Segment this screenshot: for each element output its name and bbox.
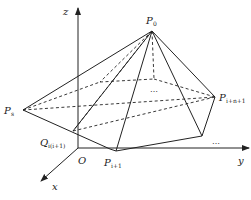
label-ps: P s bbox=[3, 105, 14, 117]
svg-text:s: s bbox=[11, 110, 14, 117]
svg-text:P: P bbox=[103, 157, 111, 168]
hidden-edges bbox=[23, 31, 215, 131]
ellipsis-right: … bbox=[212, 137, 220, 146]
svg-text:i+1: i+1 bbox=[111, 162, 122, 169]
label-q: Q i(i+1) bbox=[40, 137, 65, 149]
svg-text:P: P bbox=[3, 105, 11, 116]
svg-text:P: P bbox=[145, 15, 153, 26]
origin-label: O bbox=[78, 155, 86, 166]
pyramid-diagram: z y x O P 0 P s P i+n+1 P i+1 Q i(i+1) …… bbox=[0, 0, 251, 200]
svg-text:i(i+1): i(i+1) bbox=[48, 142, 65, 149]
svg-text:0: 0 bbox=[153, 20, 157, 27]
visible-edges bbox=[23, 31, 215, 151]
x-axis bbox=[41, 148, 78, 181]
label-p-i-1: P i+1 bbox=[103, 157, 122, 169]
x-axis-label: x bbox=[52, 181, 58, 192]
y-axis-label: y bbox=[237, 155, 244, 166]
label-p0: P 0 bbox=[145, 15, 157, 27]
svg-text:i+n+1: i+n+1 bbox=[226, 97, 246, 104]
svg-text:P: P bbox=[218, 92, 226, 103]
label-p-i-n-1: P i+n+1 bbox=[218, 92, 246, 104]
z-axis-label: z bbox=[62, 6, 69, 17]
coordinate-axes bbox=[41, 8, 249, 181]
svg-text:Q: Q bbox=[40, 137, 48, 148]
ellipsis-center: … bbox=[150, 85, 158, 94]
